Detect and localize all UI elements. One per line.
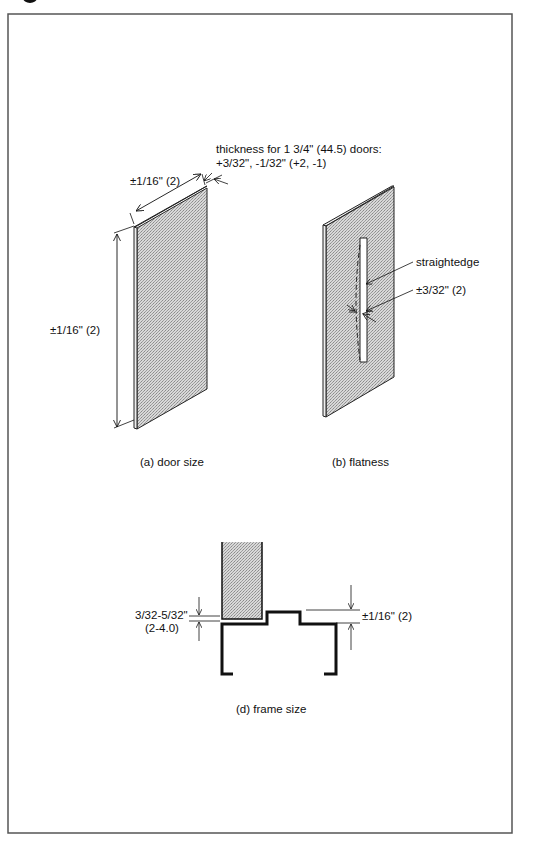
frame-profile <box>222 612 336 674</box>
width-tolerance-label: ±1/16" (2) <box>130 175 180 187</box>
bullet-mark <box>23 0 37 3</box>
caption-flatness: (b) flatness <box>332 456 389 468</box>
door-side-edge-b <box>323 225 326 417</box>
door-section <box>222 542 262 619</box>
door-panel <box>137 188 207 429</box>
door-side-edge <box>134 227 137 429</box>
thickness-label-line2: +3/32", -1/32" (+2, -1) <box>216 157 327 169</box>
caption-door-size: (a) door size <box>140 456 204 468</box>
straightedge <box>360 238 367 362</box>
frame-tolerance-label: ±1/16" (2) <box>362 610 412 622</box>
clearance-label-line1: 3/32-5/32" <box>135 609 188 621</box>
clearance-label-line2: (2-4.0) <box>145 622 179 634</box>
straightedge-label: straightedge <box>416 256 479 268</box>
caption-frame-size: (d) frame size <box>236 703 306 715</box>
height-tolerance-label: ±1/16" (2) <box>50 324 100 336</box>
panel-b-flatness: straightedge ±3/32" (2) (b) flatness <box>323 186 479 468</box>
flatness-tolerance-label: ±3/32" (2) <box>416 284 466 296</box>
thickness-label-line1: thickness for 1 3/4" (44.5) doors: <box>216 143 382 155</box>
door-tolerance-figure: ±1/16" (2) ±1/16" (2) thickness for 1 3/… <box>0 0 544 850</box>
panel-d-frame-size: 3/32-5/32" (2-4.0) ±1/16" (2) (d) frame … <box>135 542 412 715</box>
